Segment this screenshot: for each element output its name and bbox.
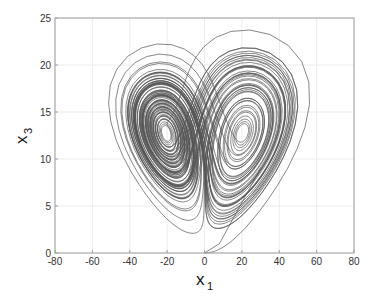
x-tick-label: 0 [202, 256, 208, 267]
x-axis-label-subscript: 1 [207, 280, 213, 292]
x-axis-label-main: x [196, 270, 205, 289]
x-tick-label: -20 [160, 256, 175, 267]
x-tick-label: -60 [85, 256, 100, 267]
y-tick-label: 5 [45, 201, 51, 212]
grid-lines [55, 18, 354, 253]
y-tick-label: 15 [40, 107, 52, 118]
y-tick-label: 25 [40, 13, 52, 24]
x-tick-label: 40 [274, 256, 286, 267]
y-tick-label: 20 [40, 60, 52, 71]
x-tick-label: -40 [123, 256, 138, 267]
x-tick-label: 80 [348, 256, 360, 267]
y-tick-label: 0 [45, 248, 51, 259]
y-tick-label: 10 [40, 154, 52, 165]
x-tick-label: 20 [236, 256, 248, 267]
y-axis-label-subscript: 3 [22, 128, 34, 134]
attractor-chart: -80-60-40-20020406080 0510152025 x 1 x 3 [0, 0, 374, 306]
x-axis-label: x 1 [196, 270, 213, 292]
x-tick-label: 60 [311, 256, 323, 267]
y-axis-label-main: x [12, 135, 31, 144]
y-axis-label: x 3 [12, 128, 34, 144]
